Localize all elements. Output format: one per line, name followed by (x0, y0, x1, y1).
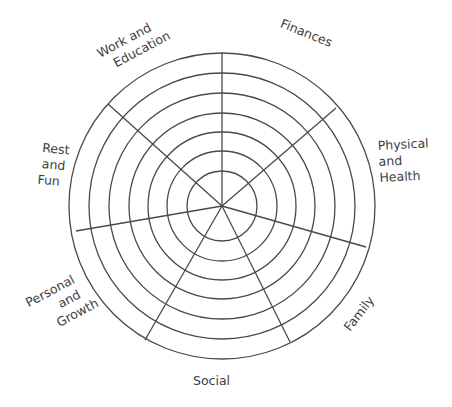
spoke-divider-5 (145, 206, 222, 340)
label-line: and (41, 156, 66, 173)
segment-label-social: Social (193, 373, 230, 388)
label-line: Fun (37, 172, 61, 189)
spoke-divider-6 (76, 206, 222, 231)
segment-label-personal-and-growth: Personal and Growth (23, 267, 101, 338)
label-line: Health (379, 168, 421, 185)
label-line: Social (193, 373, 230, 388)
wheel-of-life-diagram: Finances Physical and Health Family Soci… (0, 0, 452, 407)
label-line: Finances (278, 16, 334, 50)
label-line: Physical (377, 135, 429, 153)
segment-label-rest-and-fun: Rest and Fun (37, 140, 70, 189)
spoke-divider-4 (222, 206, 290, 342)
spoke-divider-7 (108, 104, 222, 206)
segment-label-finances: Finances (278, 16, 334, 50)
spoke-divider-2 (222, 108, 336, 206)
segment-label-family: Family (341, 292, 378, 333)
labels: Finances Physical and Health Family Soci… (23, 13, 431, 388)
label-line: and (378, 153, 402, 169)
spoke-divider-3 (222, 206, 366, 247)
label-line: Rest (42, 140, 71, 157)
segment-label-physical-and-health: Physical and Health (377, 135, 430, 185)
label-line: Family (341, 292, 378, 333)
